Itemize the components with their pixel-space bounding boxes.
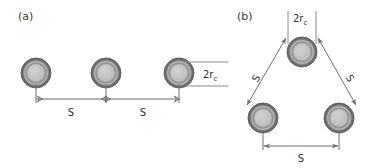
panel-b-label: (b) bbox=[237, 10, 253, 23]
particle-a2 bbox=[91, 58, 121, 88]
particle-a1 bbox=[21, 58, 51, 88]
panel-a-label: (a) bbox=[18, 10, 33, 23]
diameter-label-a-sub: c bbox=[213, 75, 217, 83]
schematic-figure: (a) S S 2rc (b) bbox=[0, 0, 383, 168]
diameter-label-b-sub: c bbox=[303, 19, 307, 27]
particle-b-top bbox=[287, 37, 317, 67]
figure-background bbox=[0, 0, 383, 168]
spacing-label-b-bottom: S bbox=[298, 153, 304, 164]
spacing-label-a-left: S bbox=[68, 107, 74, 118]
particle-b-bottom-right bbox=[324, 103, 354, 133]
particle-b-bottom-left bbox=[248, 103, 278, 133]
spacing-label-a-right: S bbox=[140, 107, 146, 118]
